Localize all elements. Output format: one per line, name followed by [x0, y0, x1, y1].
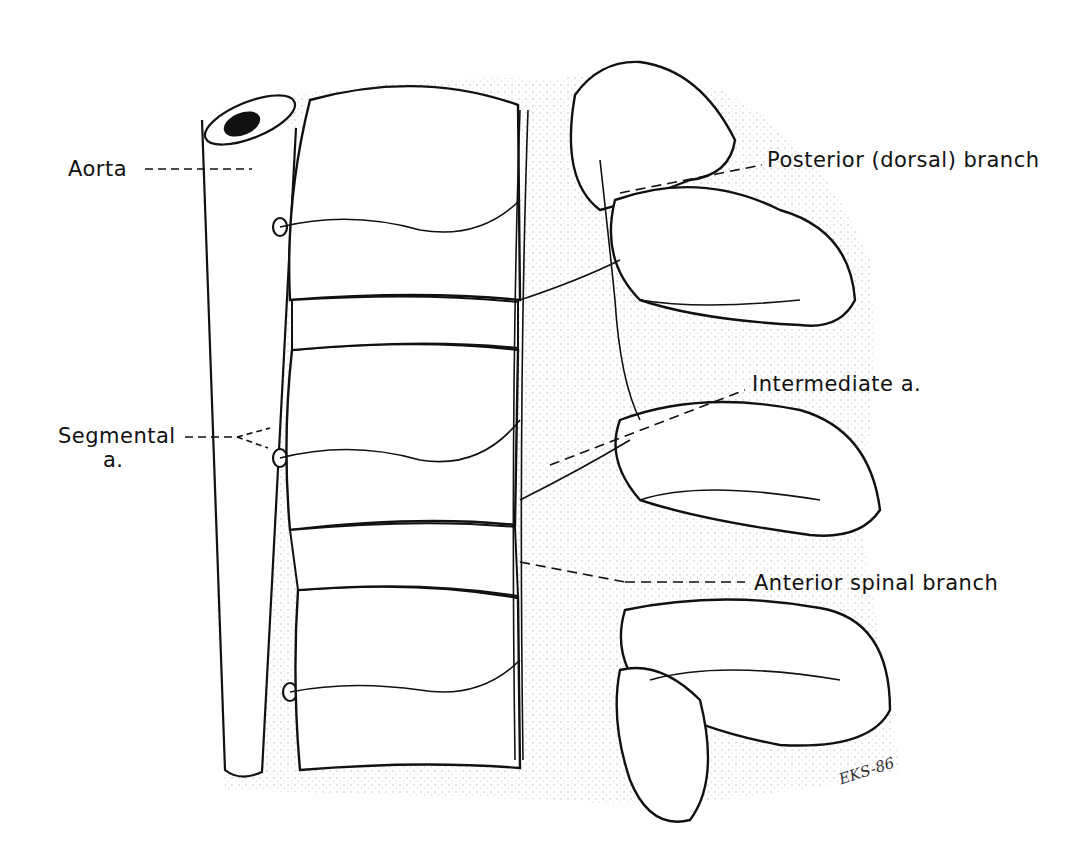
vertebral-bodies	[286, 86, 520, 770]
label-anterior-spinal-branch: Anterior spinal branch	[754, 573, 998, 594]
label-intermediate-a: Intermediate a.	[752, 374, 921, 395]
label-posterior-dorsal-branch: Posterior (dorsal) branch	[767, 150, 1040, 171]
label-aorta: Aorta	[68, 159, 127, 180]
label-segmental-line2: a.	[103, 450, 124, 471]
label-segmental-line1: Segmental	[58, 426, 176, 447]
